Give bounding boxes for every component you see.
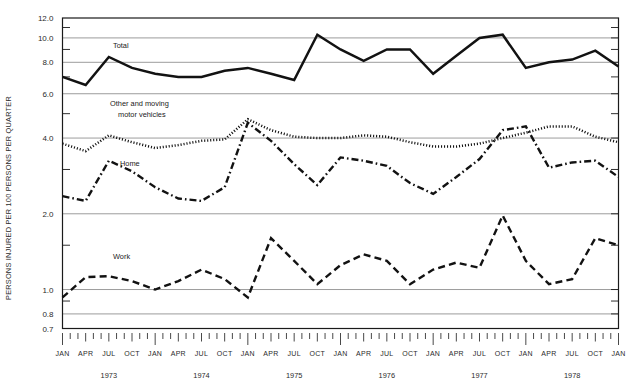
x-axis-tick-label: JAN	[519, 350, 533, 357]
series-line-work	[63, 215, 619, 297]
x-axis-tick-label: APR	[78, 350, 93, 357]
y-axis-tick-label: 10.0	[38, 34, 54, 43]
x-axis-year-label: 1977	[471, 371, 487, 380]
x-axis-tick-label: JAN	[611, 350, 625, 357]
x-axis-tick-label: APR	[171, 350, 186, 357]
series-label-other-motor-vehicles-line2: motor vehicles	[118, 110, 166, 119]
y-axis-tick-label: 2.0	[42, 210, 54, 219]
x-axis-tick-label: JUL	[380, 350, 393, 357]
series-label-work: Work	[113, 252, 130, 261]
y-axis-tick-label: 12.0	[38, 14, 54, 23]
y-axis-tick-label: 6.0	[42, 90, 54, 99]
quarterly-injury-rate-line-chart: 12.010.08.06.04.02.01.00.80.7PERSONS INJ…	[0, 0, 638, 388]
series-label-other-motor-vehicles-line1: Other and moving	[110, 99, 169, 108]
x-axis-year-label: 1973	[101, 371, 117, 380]
chart-container: 12.010.08.06.04.02.01.00.80.7PERSONS INJ…	[0, 0, 638, 388]
x-axis-tick-label: JUL	[287, 350, 300, 357]
x-axis-year-label: 1978	[564, 371, 580, 380]
x-axis-tick-label: APR	[263, 350, 278, 357]
x-axis-year-label: 1976	[379, 371, 395, 380]
x-axis-year-label: 1975	[286, 371, 302, 380]
series-line-home	[63, 123, 619, 201]
series-label-home: Home	[120, 159, 140, 168]
x-axis-tick-label: JUL	[473, 350, 486, 357]
x-axis-tick-label: OCT	[587, 350, 603, 357]
y-axis-tick-label: 0.7	[42, 325, 54, 334]
x-axis-tick-label: JUL	[195, 350, 208, 357]
y-axis-tick-label: 0.8	[42, 310, 54, 319]
x-axis-tick-label: OCT	[495, 350, 511, 357]
x-axis-tick-label: OCT	[124, 350, 140, 357]
x-axis-tick-label: APR	[541, 350, 556, 357]
x-axis-tick-label: APR	[356, 350, 371, 357]
x-axis-tick-label: JAN	[426, 350, 440, 357]
series-line-other-and-moving-motor-vehicles	[63, 119, 619, 151]
x-axis-tick-label: JAN	[55, 350, 69, 357]
y-axis-tick-label: 1.0	[42, 286, 54, 295]
x-axis-tick-label: OCT	[309, 350, 325, 357]
x-axis-tick-label: APR	[449, 350, 464, 357]
series-line-total	[63, 35, 619, 85]
y-axis-title: PERSONS INJURED PER 100 PERSONS PER QUAR…	[4, 96, 13, 300]
x-axis-tick-label: OCT	[402, 350, 418, 357]
x-axis-tick-label: JAN	[148, 350, 162, 357]
x-axis-tick-label: OCT	[217, 350, 233, 357]
x-axis-tick-label: JAN	[241, 350, 255, 357]
y-axis-tick-label: 8.0	[42, 58, 54, 67]
x-axis-tick-label: JUL	[102, 350, 115, 357]
x-axis-tick-label: JUL	[565, 350, 578, 357]
x-axis-year-label: 1974	[193, 371, 209, 380]
series-label-total: Total	[113, 41, 129, 50]
x-axis-tick-label: JAN	[333, 350, 347, 357]
y-axis-tick-label: 4.0	[42, 134, 54, 143]
